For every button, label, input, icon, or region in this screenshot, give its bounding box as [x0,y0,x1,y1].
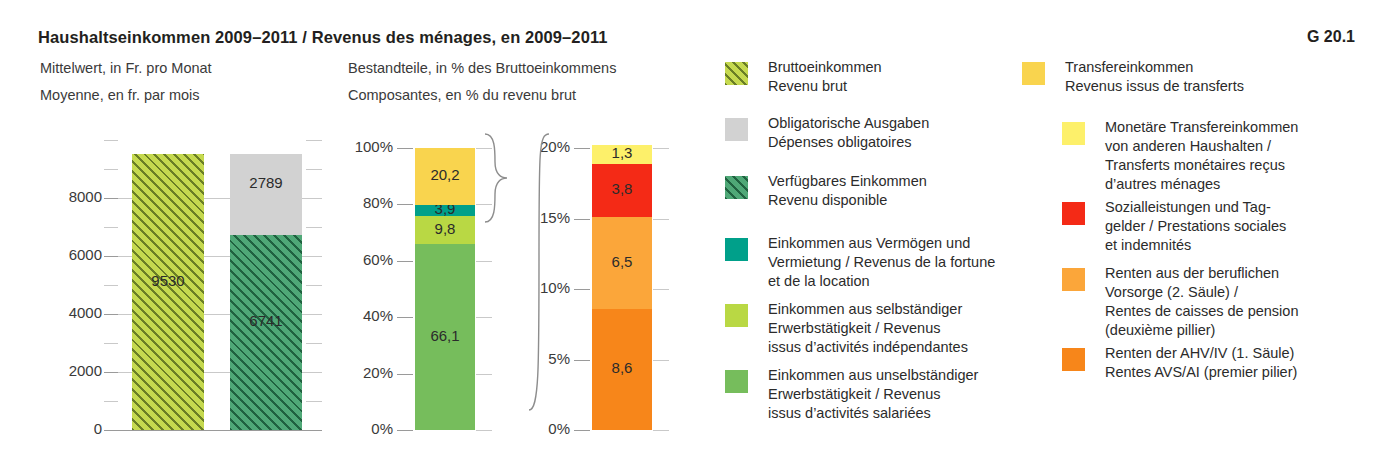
bar-value-label: 9,8 [415,220,475,237]
tick-minor [104,343,118,344]
legend-label: Einkommen aus unselbständiger Erwerbstät… [768,366,978,423]
y-axis-label: 0% [295,420,393,437]
x-axis-baseline [104,430,322,431]
y-axis-label: 100% [295,138,393,155]
tick-major-right [653,219,669,220]
y-axis-label: 6000 [10,246,102,263]
y-axis-label: 2000 [10,362,102,379]
bar-segment [230,235,302,430]
tick-minor-right [306,227,322,228]
tick-minor-right [306,343,322,344]
bar-value-label: 9530 [132,272,204,289]
subtitle-right-de: Bestandteile, in % des Bruttoeinkommens [348,60,616,76]
tick-minor [104,140,118,141]
legend-label: Einkommen aus Vermögen und Vermietung / … [768,234,995,291]
subtitle-right-fr: Composantes, en % du revenu brut [348,87,576,103]
page-title: Haushaltseinkommen 2009–2011 / Revenus d… [38,28,608,47]
occupational-pension-swatch [1062,268,1085,291]
bar-segment [230,154,302,235]
wealth-rental-swatch [725,238,748,261]
self-employed-swatch [725,304,748,327]
tick-major-right [653,289,669,290]
y-axis-label: 60% [295,251,393,268]
tick-major [397,148,413,149]
tick-major [397,261,413,262]
bar-value-label: 8,6 [592,359,652,376]
y-axis-label: 8000 [10,188,102,205]
bar-value-label: 1,3 [592,144,652,161]
legend-label: Renten aus der beruflichen Vorsorge (2. … [1105,264,1298,340]
mandatory-expenses-swatch [725,118,748,141]
tick-minor [104,285,118,286]
tick-major [104,314,118,315]
subtitle-left-de: Mittelwert, in Fr. pro Monat [40,60,212,76]
legend-label: Renten der AHV/IV (1. Säule) Rentes AVS/… [1105,344,1297,382]
tick-major-right [653,148,669,149]
tick-major [397,317,413,318]
bar-value-label: 6,5 [592,253,652,270]
bar-value-label: 6741 [230,312,302,329]
transfer-income-swatch [1022,62,1045,85]
y-axis-label: 80% [295,194,393,211]
legend-label: Einkommen aus selbständiger Erwerbstätig… [768,300,968,357]
tick-minor [104,401,118,402]
legend-label: Transfereinkommen Revenus issus de trans… [1065,58,1244,96]
bar-value-label: 2789 [230,174,302,191]
legend-label: Bruttoeinkommen Revenu brut [768,58,882,96]
y-axis-label: 20% [295,364,393,381]
legend-label: Obligatorische Ausgaben Dépenses obligat… [768,114,929,152]
tick-minor-right [306,401,322,402]
tick-major [397,204,413,205]
ahv-iv-pension-swatch [1062,348,1085,371]
tick-major [104,372,118,373]
monetary-transfers-swatch [1062,122,1085,145]
tick-major-right [653,360,669,361]
figure-number: G 20.1 [1307,28,1355,46]
bar-value-label: 3,8 [592,180,652,197]
subtitle-left-fr: Moyenne, en fr. par mois [40,87,200,103]
tick-major [104,256,118,257]
tick-minor [104,169,118,170]
tick-minor-right [306,169,322,170]
bar-value-label: 20,2 [415,166,475,183]
tick-minor-right [306,285,322,286]
tick-major [397,430,413,431]
gross-income-swatch [725,62,748,85]
bar-segment [132,154,204,430]
tick-minor [104,227,118,228]
employed-swatch [725,370,748,393]
y-axis-label: 4000 [10,304,102,321]
tick-major [397,374,413,375]
y-axis-label: 0 [10,420,102,437]
tick-major [104,198,118,199]
disposable-income-swatch [725,176,748,199]
y-axis-label: 40% [295,307,393,324]
legend-label: Sozialleistungen und Tag- gelder / Prest… [1105,198,1286,255]
social-benefits-swatch [1062,202,1085,225]
legend-label: Verfügbares Einkommen Revenu disponible [768,172,927,210]
bar-value-label: 66,1 [415,327,475,344]
brace-connector [477,128,577,448]
tick-major-right [653,430,669,431]
legend-label: Monetäre Transfereinkommen von anderen H… [1105,118,1298,194]
